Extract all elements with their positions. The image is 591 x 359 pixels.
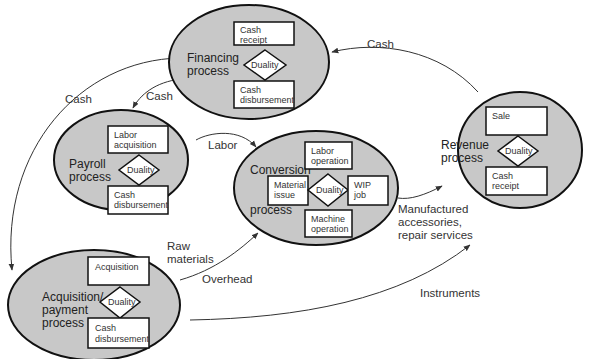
flow-arrow-conversion-to-revenue: [398, 186, 442, 198]
flow-label-cash-acquisition: Cash: [65, 93, 92, 105]
flow-label-manufactured: Manufactured accessories, repair service…: [398, 203, 473, 241]
flow-label-overhead: Overhead: [202, 273, 253, 285]
value-chain-diagram: Cash Cash Cash Labor Manufactured access…: [0, 0, 591, 359]
flow-label-instruments: Instruments: [420, 287, 480, 299]
svg-text:Sale: Sale: [492, 111, 510, 121]
financing-process: Financing process Cashreceipt Duality Ca…: [169, 5, 329, 119]
flow-arrow-revenue-to-financing: [332, 47, 478, 92]
svg-text:Acquisition: Acquisition: [95, 262, 139, 272]
svg-text:Duality: Duality: [127, 165, 155, 175]
payroll-process-label: Payroll process: [69, 157, 111, 184]
svg-text:Machineoperation: Machineoperation: [311, 214, 349, 234]
flow-label-cash-payroll: Cash: [146, 90, 173, 102]
svg-text:Duality: Duality: [505, 146, 533, 156]
flow-label-cash-revenue: Cash: [367, 38, 394, 50]
flow-label-labor: Labor: [208, 139, 238, 151]
svg-text:Duality: Duality: [316, 185, 344, 195]
flow-label-raw-materials: Raw materials: [167, 240, 214, 265]
payroll-process: Payroll process Laboracquisition Duality…: [54, 110, 188, 214]
svg-text:Duality: Duality: [251, 60, 279, 70]
acquisition-payment-process: Acquisition/ payment process Acquisition…: [8, 250, 180, 359]
revenue-process: Revenue process Sale Duality Cashreceipt: [441, 92, 582, 208]
conversion-process: Conversion process Laboroperation Materi…: [234, 131, 398, 245]
svg-text:Duality: Duality: [108, 297, 136, 307]
